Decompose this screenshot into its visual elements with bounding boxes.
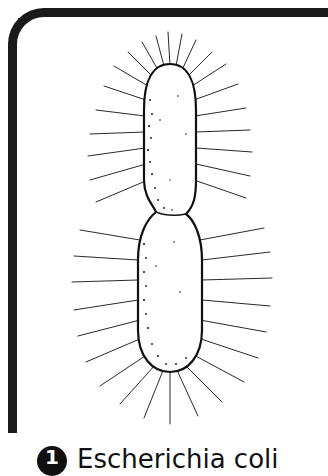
badge-number: 1 [45, 447, 59, 467]
numbered-circle-icon: 1 [37, 446, 67, 476]
caption-text: Escherichia coli [77, 446, 279, 472]
figure-caption: 1 Escherichia coli [37, 446, 279, 476]
bacterium-illustration-icon [60, 30, 280, 430]
